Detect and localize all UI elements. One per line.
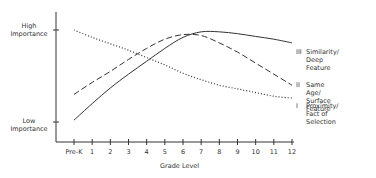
series-line-II — [74, 34, 292, 94]
axes — [53, 12, 294, 142]
legend-roman-numeral: I — [296, 102, 298, 110]
x-tick-label: 6 — [181, 148, 185, 156]
legend-roman-numeral: II — [296, 81, 300, 89]
x-tick-label: 4 — [145, 148, 149, 156]
x-tick-label: 3 — [126, 148, 130, 156]
y-low-line1: Low — [4, 117, 54, 125]
x-tick-label: 5 — [163, 148, 167, 156]
legend-line1: Similarity/ — [306, 48, 339, 56]
x-tick-label: 11 — [270, 148, 278, 156]
y-high-line2: Importance — [4, 30, 54, 38]
x-axis-label: Grade Level — [160, 162, 199, 170]
x-tick-label: 10 — [252, 148, 260, 156]
x-tick-label: 12 — [288, 148, 296, 156]
legend-roman-numeral: III — [296, 48, 302, 56]
legend-line1: Same Age/ — [306, 81, 331, 97]
x-tick-label: 1 — [90, 148, 94, 156]
legend-line2: Fact of Selection — [306, 110, 339, 126]
y-high-line1: High — [4, 22, 54, 30]
series-line-III — [74, 31, 292, 120]
x-tick-label: 9 — [235, 148, 239, 156]
x-tick-label: Pre-K — [66, 148, 83, 156]
y-low-label: Low Importance — [4, 117, 54, 133]
legend-line1: Proximity/ — [306, 102, 339, 110]
y-high-label: High Importance — [4, 22, 54, 38]
x-tick-label: 2 — [108, 148, 112, 156]
x-tick-label: 7 — [199, 148, 203, 156]
series-line-I — [74, 30, 292, 98]
x-tick-label: 8 — [217, 148, 221, 156]
legend-line2: Deep Feature — [306, 56, 339, 72]
y-low-line2: Importance — [4, 125, 54, 133]
